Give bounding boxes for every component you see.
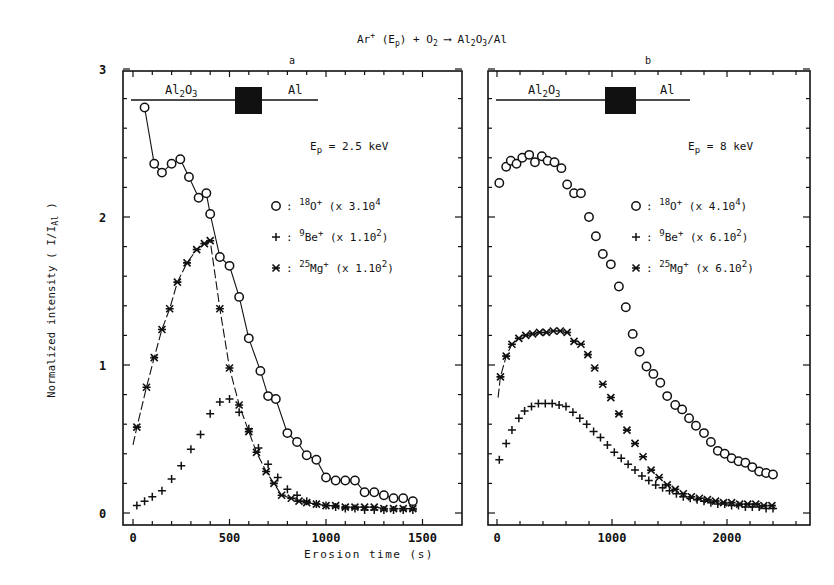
plus-marker (528, 402, 536, 410)
plus-marker (264, 460, 272, 468)
series-line (498, 344, 512, 397)
asterisk-marker (647, 467, 655, 474)
energy-annotation: Ep = 8 keV (688, 140, 753, 155)
legend-entry: : 25Mg+ (x 1.102) (272, 259, 394, 275)
circle-marker (202, 189, 210, 197)
asterisk-marker (577, 341, 585, 348)
circle-marker (707, 438, 715, 446)
circle-marker (769, 470, 777, 478)
circle-marker (649, 370, 657, 378)
circle-marker (293, 438, 301, 446)
asterisk-marker (158, 326, 166, 333)
asterisk-marker (278, 492, 286, 499)
circle-marker (272, 202, 280, 210)
circle-marker (642, 362, 650, 370)
plus-marker (645, 476, 653, 484)
plus-marker (197, 431, 205, 439)
asterisk-marker (183, 259, 191, 266)
asterisk-marker (173, 279, 181, 286)
energy-annotation: Ep = 2.5 keV (310, 140, 389, 155)
asterisk-marker (143, 384, 151, 391)
plus-marker (206, 410, 214, 418)
plus-marker (177, 462, 185, 470)
plus-marker (610, 448, 618, 456)
asterisk-marker (529, 330, 537, 337)
circle-marker (700, 429, 708, 437)
asterisk-marker (695, 495, 703, 502)
plot-frame (123, 71, 462, 525)
asterisk-marker (671, 486, 679, 493)
plus-marker (502, 439, 510, 447)
circle-marker (256, 367, 264, 375)
svg-text:3: 3 (99, 63, 106, 77)
circle-marker (283, 429, 291, 437)
panel-a: a050010001500Al2O3AlEp = 2.5 keV : 18O+ … (123, 55, 462, 545)
plus-marker (576, 414, 584, 422)
layer-label-oxide: Al2O3 (165, 83, 198, 99)
svg-text:: 9Be+ (x 6.102): : 9Be+ (x 6.102) (646, 228, 748, 244)
asterisk-marker (591, 364, 599, 371)
circle-marker (678, 405, 686, 413)
series-25Mg-ion (133, 237, 417, 512)
svg-text:: 25Mg+ (x 6.102): : 25Mg+ (x 6.102) (646, 259, 754, 275)
plus-marker (148, 493, 156, 501)
plus-marker (632, 233, 640, 241)
figure-title: Ar+ (Ep) + O2 ⟶ Al2O3/Al (357, 31, 507, 48)
plus-marker (332, 503, 340, 511)
asterisk-marker (549, 327, 557, 334)
circle-marker (176, 155, 184, 163)
panel-title: a (289, 55, 295, 66)
circle-marker (622, 303, 630, 311)
series-18O-ion (140, 103, 417, 505)
plus-marker (141, 497, 149, 505)
svg-text:: 9Be+ (x 1.102): : 9Be+ (x 1.102) (286, 228, 388, 244)
plus-marker (158, 487, 166, 495)
plus-marker (617, 454, 625, 462)
plus-marker (562, 402, 570, 410)
circle-marker (140, 103, 148, 111)
circle-marker (225, 262, 233, 270)
asterisk-marker (663, 481, 671, 488)
plus-marker (226, 395, 234, 403)
asterisk-marker (287, 495, 295, 502)
x-tick-label: 1000 (598, 531, 627, 545)
circle-marker (629, 330, 637, 338)
plus-marker (341, 505, 349, 513)
circle-marker (331, 476, 339, 484)
asterisk-marker (150, 354, 158, 361)
panel-title: b (645, 55, 651, 66)
svg-text:0: 0 (99, 507, 106, 521)
circle-marker (370, 488, 378, 496)
plus-marker (534, 399, 542, 407)
plus-marker (603, 441, 611, 449)
asterisk-marker (570, 338, 578, 345)
asterisk-marker (253, 449, 261, 456)
circle-marker (158, 168, 166, 176)
circle-marker (216, 253, 224, 261)
plus-marker (652, 481, 660, 489)
layer-label-metal: Al (288, 83, 302, 97)
plus-marker (303, 497, 311, 505)
asterisk-marker (166, 305, 174, 312)
plus-marker (390, 506, 398, 514)
circle-marker (351, 476, 359, 484)
plus-marker (133, 502, 141, 510)
legend-entry: : 18O+ (x 3.104 (272, 197, 381, 213)
panel-b: b010002000Al2O3AlEp = 8 keV : 18O+ (x 4.… (488, 55, 810, 545)
layer-label-metal: Al (660, 83, 674, 97)
asterisk-marker (556, 327, 564, 334)
circle-marker (563, 180, 571, 188)
circle-marker (272, 395, 280, 403)
asterisk-marker (736, 501, 744, 508)
circle-marker (692, 421, 700, 429)
x-tick-label: 0 (493, 531, 500, 545)
y-tick-labels: 0 1 2 3 (99, 63, 106, 521)
asterisk-marker (687, 493, 695, 500)
circle-marker (185, 173, 193, 181)
plus-marker (583, 420, 591, 428)
plus-marker (508, 426, 516, 434)
circle-marker (607, 260, 615, 268)
plus-marker (569, 408, 577, 416)
asterisk-marker (235, 401, 243, 408)
circle-marker (360, 488, 368, 496)
